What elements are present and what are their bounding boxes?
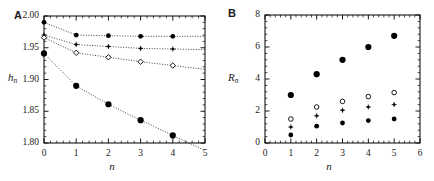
panel-b-x-tick-label: 6 — [410, 149, 430, 159]
panel-a-x-tick-label: 0 — [34, 149, 54, 159]
panel-a-y-tick-label: 1.95 — [4, 43, 39, 53]
panel-a-x-tick-label: 4 — [163, 149, 183, 159]
panel-b: B Rn n 024680123456 — [217, 0, 434, 181]
panel-b-x-tick-label: 2 — [307, 149, 327, 159]
panel-b-y-tick-label: 4 — [225, 74, 260, 84]
panel-b-x-tick-label: 0 — [255, 149, 275, 159]
panel-b-x-tick-label: 5 — [384, 149, 404, 159]
panel-a-x-tick-label: 2 — [98, 149, 118, 159]
panel-a-x-tick-label: 5 — [195, 149, 215, 159]
panel-a-x-tick-label: 1 — [66, 149, 86, 159]
panel-b-y-tick-label: 8 — [225, 10, 260, 20]
panel-b-y-tick-label: 2 — [225, 106, 260, 116]
panel-b-x-tick-label: 3 — [333, 149, 353, 159]
figure: A hn n 1.801.851.901.952.00012345 B Rn n… — [0, 0, 434, 181]
panel-a-y-tick-label: 1.80 — [4, 138, 39, 148]
panel-a-x-tick-label: 3 — [131, 149, 151, 159]
panel-b-x-tick-label: 4 — [358, 149, 378, 159]
panel-b-y-tick-label: 0 — [225, 138, 260, 148]
panel-a-y-tick-label: 1.85 — [4, 106, 39, 116]
panel-a-y-tick-label: 1.90 — [4, 75, 39, 85]
panel-b-y-tick-label: 6 — [225, 42, 260, 52]
panel-a: A hn n 1.801.851.901.952.00012345 — [0, 0, 217, 181]
panel-a-y-tick-label: 2.00 — [4, 11, 39, 21]
panel-b-x-tick-label: 1 — [281, 149, 301, 159]
